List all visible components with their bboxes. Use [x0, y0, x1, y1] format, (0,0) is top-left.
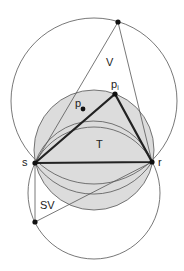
point-bottom: [32, 219, 37, 224]
label-SV: SV: [40, 199, 55, 211]
point-p-i: [112, 91, 117, 96]
point-s: [32, 160, 37, 165]
label-p-i: pi: [111, 78, 119, 91]
label-r: r: [158, 156, 162, 168]
label-p: p: [75, 97, 81, 109]
point-top: [115, 19, 120, 24]
label-T: T: [96, 138, 103, 150]
label-p-i-subscript: i: [117, 84, 119, 91]
point-p: [81, 107, 86, 112]
point-r: [149, 159, 154, 164]
geometry-diagram: V T SV s r p pi: [0, 0, 184, 271]
label-V: V: [106, 56, 114, 68]
label-s: s: [22, 156, 28, 168]
